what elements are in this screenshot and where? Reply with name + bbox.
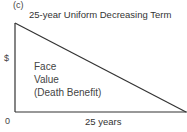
- area-label-line-1: Face: [34, 62, 56, 72]
- diagram-title: 25-year Uniform Decreasing Term: [29, 10, 171, 20]
- area-label-line-2: Value: [34, 75, 59, 85]
- x-axis-label: 25 years: [85, 117, 121, 127]
- y-axis-label: $: [4, 54, 9, 63]
- x-tick-origin: 0: [5, 117, 10, 126]
- panel-label: (c): [13, 1, 24, 10]
- area-label-line-3: (Death Benefit): [34, 88, 101, 98]
